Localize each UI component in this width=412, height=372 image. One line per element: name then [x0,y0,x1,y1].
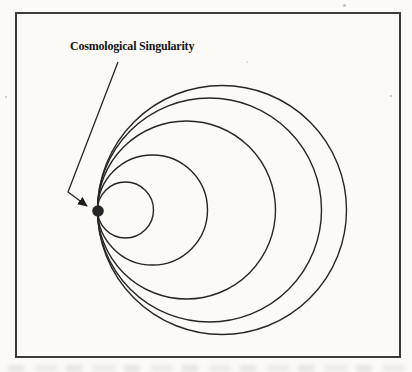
ghost-caption-strip [8,365,406,372]
scan-speck [246,61,248,63]
singularity-label: Cosmological Singularity [70,39,194,54]
spacetime-diagram [0,0,412,372]
scan-speck [5,96,7,98]
spacetime-circle [98,155,208,265]
expansion-circles [98,86,347,335]
scan-speck [343,4,346,7]
scanned-figure-page: Cosmological Singularity [0,0,412,372]
figure-frame [16,13,400,357]
pointer-arrow [68,62,118,206]
spacetime-circle [98,182,154,238]
spacetime-circle [98,86,347,335]
singularity-dot [92,205,104,217]
spacetime-circle [98,121,276,299]
spacetime-circle [98,98,322,322]
scan-speck [390,95,392,97]
